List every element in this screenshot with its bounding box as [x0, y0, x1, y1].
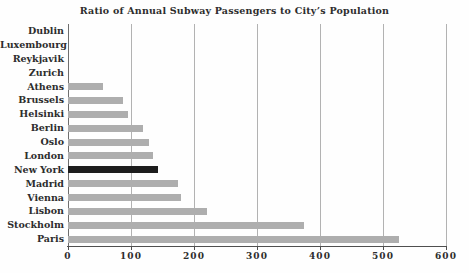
bar-helsinki — [68, 111, 128, 118]
category-label: Athens — [0, 80, 64, 94]
category-label: New York — [0, 163, 64, 177]
tick-label-100: 100 — [120, 251, 142, 261]
bar-row: Helsinki — [0, 107, 469, 121]
tick-label-400: 400 — [309, 251, 331, 261]
bar-row: Luxembourg — [0, 38, 469, 52]
category-label: Vienna — [0, 191, 64, 205]
chart-title: Ratio of Annual Subway Passengers to Cit… — [10, 5, 459, 16]
tick-mark-100 — [131, 247, 132, 250]
category-label: Oslo — [0, 135, 64, 149]
tick-mark-400 — [320, 247, 321, 250]
bar-row: Reykjavik — [0, 52, 469, 66]
tick-label-300: 300 — [246, 251, 268, 261]
category-label: Stockholm — [0, 218, 64, 232]
category-label: London — [0, 149, 64, 163]
bar-row: Lisbon — [0, 204, 469, 218]
category-label: Dublin — [0, 24, 64, 38]
bar-row: Zurich — [0, 66, 469, 80]
bar-chart: Ratio of Annual Subway Passengers to Cit… — [0, 0, 469, 273]
tick-label-200: 200 — [183, 251, 205, 261]
bar-row: Berlin — [0, 121, 469, 135]
category-label: Brussels — [0, 93, 64, 107]
category-label: Berlin — [0, 121, 64, 135]
category-label: Reykjavik — [0, 52, 64, 66]
bar-oslo — [68, 139, 149, 146]
bar-vienna — [68, 194, 181, 201]
bar-row: Brussels — [0, 93, 469, 107]
bar-row: Dublin — [0, 24, 469, 38]
category-label: Luxembourg — [0, 38, 64, 52]
bar-lisbon — [68, 208, 207, 215]
bar-athens — [68, 83, 103, 90]
tick-mark-600 — [446, 247, 447, 250]
bar-stockholm — [68, 222, 304, 229]
bar-madrid — [68, 180, 178, 187]
bar-row: Stockholm — [0, 218, 469, 232]
bar-london — [68, 152, 153, 159]
bar-new-york — [68, 166, 158, 173]
bar-row: London — [0, 149, 469, 163]
category-label: Paris — [0, 232, 64, 246]
tick-label-500: 500 — [372, 251, 394, 261]
tick-mark-300 — [257, 247, 258, 250]
bar-row: Paris — [0, 232, 469, 246]
bar-brussels — [68, 97, 123, 104]
category-label: Helsinki — [0, 107, 64, 121]
tick-mark-500 — [383, 247, 384, 250]
bar-row: Madrid — [0, 177, 469, 191]
category-label: Lisbon — [0, 204, 64, 218]
bar-row: New York — [0, 163, 469, 177]
bar-paris — [68, 236, 399, 243]
tick-mark-0 — [68, 247, 69, 250]
bar-row: Oslo — [0, 135, 469, 149]
tick-mark-200 — [194, 247, 195, 250]
bar-row: Vienna — [0, 191, 469, 205]
bar-berlin — [68, 125, 143, 132]
category-label: Madrid — [0, 177, 64, 191]
tick-label-600: 600 — [435, 251, 457, 261]
bar-row: Athens — [0, 80, 469, 94]
category-label: Zurich — [0, 66, 64, 80]
tick-label-0: 0 — [64, 251, 71, 261]
